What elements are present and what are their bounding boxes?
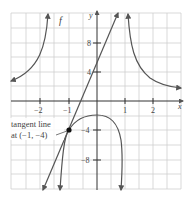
graph: −2 −1 1 2 8 4 −4 −8 x y f tangent line a… xyxy=(0,0,188,199)
function-label-f: f xyxy=(59,15,63,26)
annotation-line2: at (−1, −4) xyxy=(11,130,47,140)
x-tick-label: 2 xyxy=(151,106,155,115)
annotation-line1: tangent line xyxy=(11,119,51,129)
y-axis-label: y xyxy=(88,11,93,20)
x-tick-label: 1 xyxy=(123,106,127,115)
f-left-branch xyxy=(11,14,48,81)
y-tick-label: −8 xyxy=(81,156,90,165)
y-tick-label: 8 xyxy=(87,39,91,48)
f-right-branch xyxy=(128,14,181,88)
y-tick-label: −4 xyxy=(81,126,90,135)
x-tick-label: −2 xyxy=(34,106,43,115)
function-f xyxy=(11,14,181,190)
axes xyxy=(11,11,183,190)
tick-labels: −2 −1 1 2 8 4 −4 −8 x y f xyxy=(34,11,182,165)
x-axis-label: x xyxy=(177,102,182,111)
tangent-point xyxy=(66,127,71,132)
y-tick-label: 4 xyxy=(87,68,91,77)
x-tick-label: −1 xyxy=(63,106,72,115)
